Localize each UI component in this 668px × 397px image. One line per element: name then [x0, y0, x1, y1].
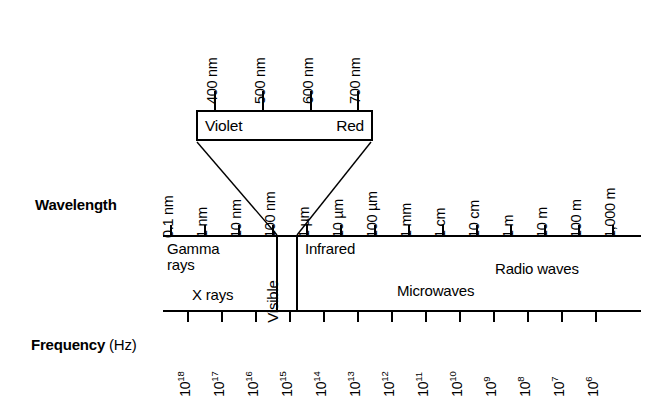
- frequency-tick-3: [289, 311, 291, 322]
- frequency-tick-4: [323, 311, 325, 322]
- nm-label-700: 700 nm: [347, 57, 363, 104]
- frequency-tick-5: [357, 311, 359, 322]
- wavelength-label-2: 10 nm: [228, 199, 244, 238]
- frequency-tick-1: [221, 311, 223, 322]
- frequency-label-8: 1010: [447, 372, 465, 397]
- band-radio-waves: Radio waves: [495, 261, 579, 277]
- frequency-label-3: 1015: [277, 372, 295, 397]
- wavelength-label-3: 100 nm: [262, 191, 278, 238]
- wavelength-label-12: 100 m: [568, 199, 584, 238]
- frequency-axis-title: Frequency (Hz): [31, 336, 137, 353]
- frequency-tick-0: [187, 311, 189, 322]
- band-infrared: Infrared: [305, 241, 355, 257]
- frequency-label-5: 1013: [345, 372, 363, 397]
- nm-label-600: 600 nm: [300, 57, 316, 104]
- wavelength-label-11: 10 m: [534, 207, 550, 238]
- frequency-label-6: 1012: [379, 372, 397, 397]
- wavelength-label-9: 10 cm: [466, 200, 482, 238]
- frequency-label-12: 106: [583, 377, 601, 397]
- frequency-tick-11: [561, 311, 563, 322]
- band-x-rays: X rays: [192, 287, 233, 303]
- wavelength-label-6: 100 µm: [364, 191, 380, 238]
- wavelength-label-4: 1 µm: [296, 207, 312, 238]
- frequency-tick-8: [459, 311, 461, 322]
- frequency-label-0: 1018: [175, 372, 193, 397]
- wavelength-label-10: 1 m: [500, 215, 516, 238]
- frequency-tick-12: [595, 311, 597, 322]
- wavelength-label-1: 1 nm: [194, 207, 210, 238]
- wavelength-axis-title: Wavelength: [35, 196, 117, 213]
- frequency-tick-2: [255, 311, 257, 322]
- red-label: Red: [336, 117, 364, 135]
- band-gamma-rays: Gamma rays: [167, 241, 219, 273]
- frequency-label-11: 107: [549, 377, 567, 397]
- frequency-axis-line: [163, 310, 641, 312]
- frequency-label-9: 109: [481, 377, 499, 397]
- visible-spectrum-callout-box: Violet Red: [196, 110, 373, 141]
- frequency-label-7: 1011: [413, 372, 431, 396]
- frequency-label-2: 1016: [243, 372, 261, 397]
- band-visible: Visible: [265, 280, 281, 323]
- wavelength-label-8: 1 cm: [432, 208, 448, 238]
- frequency-label-4: 1014: [311, 372, 329, 397]
- frequency-unit: (Hz): [105, 336, 137, 353]
- frequency-label-10: 108: [515, 377, 533, 397]
- frequency-tick-10: [527, 311, 529, 322]
- nm-label-500: 500 nm: [252, 57, 268, 104]
- band-microwaves: Microwaves: [397, 283, 474, 299]
- nm-label-400: 400 nm: [204, 57, 220, 104]
- wavelength-label-7: 1 mm: [398, 203, 414, 238]
- wavelength-label-0: 0.1 nm: [160, 195, 176, 238]
- wavelength-label-5: 10 µm: [330, 199, 346, 238]
- wavelength-label-13: 1,000 m: [602, 188, 618, 238]
- frequency-label-1: 1017: [209, 372, 227, 397]
- frequency-tick-7: [425, 311, 427, 322]
- frequency-tick-6: [391, 311, 393, 322]
- frequency-tick-9: [493, 311, 495, 322]
- violet-label: Violet: [205, 117, 242, 135]
